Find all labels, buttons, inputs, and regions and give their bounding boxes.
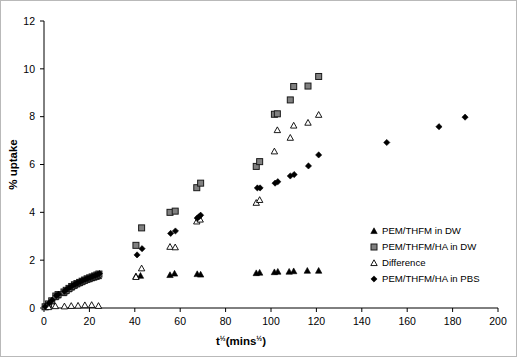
x-tick-label: 100 (262, 315, 280, 327)
data-point-filled-diamond (384, 139, 390, 145)
data-point-filled-triangle (291, 268, 297, 274)
data-point-open-triangle (274, 127, 280, 133)
data-point-gray-square (198, 180, 204, 186)
data-point-gray-square (305, 83, 311, 89)
data-point-gray-square (257, 159, 263, 165)
data-point-filled-diamond (436, 124, 442, 130)
y-tick-label: 0 (29, 302, 35, 314)
data-point-filled-diamond (462, 114, 468, 120)
y-tick-label: 12 (23, 15, 35, 27)
y-axis-title: % uptake (7, 139, 19, 190)
data-point-open-triangle (88, 302, 94, 308)
data-point-open-triangle (82, 302, 88, 308)
data-point-gray-square (291, 84, 297, 90)
y-tick-label: 10 (23, 63, 35, 75)
data-point-filled-diamond (316, 152, 322, 158)
data-point-open-triangle (167, 244, 173, 250)
data-point-open-triangle (315, 112, 321, 118)
data-point-filled-triangle (315, 267, 321, 273)
y-tick-label: 8 (29, 110, 35, 122)
y-tick-label: 6 (29, 158, 35, 170)
data-point-open-triangle (291, 122, 297, 128)
x-axis-title: t½(mins½) (216, 335, 266, 347)
x-tick-label: 120 (308, 315, 326, 327)
y-tick-label: 4 (29, 206, 35, 218)
data-point-filled-diamond (305, 163, 311, 169)
data-point-open-triangle (271, 148, 277, 154)
data-point-open-triangle (256, 197, 262, 203)
data-point-open-triangle (68, 303, 74, 309)
x-tick-label: 180 (444, 315, 462, 327)
x-axis-ticks: 020406080100120140160180200 (41, 308, 507, 327)
data-point-open-triangle (138, 265, 144, 271)
x-tick-label: 40 (129, 315, 141, 327)
data-point-gray-square (139, 225, 145, 231)
data-point-gray-square (371, 244, 377, 250)
y-axis-ticks: 024681012 (23, 15, 44, 314)
data-point-open-triangle (371, 260, 377, 266)
data-point-open-triangle (305, 119, 311, 125)
data-point-open-triangle (95, 303, 101, 309)
x-tick-label: 140 (353, 315, 371, 327)
chart-figure: 024681012020406080100120140160180200t½(m… (0, 0, 517, 357)
legend-label: PEM/THFM/HA in PBS (382, 273, 480, 284)
y-tick-label: 2 (29, 254, 35, 266)
data-point-filled-diamond (134, 252, 140, 258)
data-point-gray-square (133, 242, 139, 248)
legend-label: Difference (382, 257, 426, 268)
data-point-open-triangle (75, 302, 81, 308)
data-point-filled-diamond (371, 276, 377, 282)
axes (44, 21, 498, 308)
data-point-filled-triangle (304, 267, 310, 273)
x-tick-label: 20 (84, 315, 96, 327)
data-point-filled-diamond (139, 246, 145, 252)
legend-label: PEM/THFM in DW (382, 225, 462, 236)
scatter-plot: 024681012020406080100120140160180200t½(m… (1, 1, 517, 357)
x-tick-label: 200 (489, 315, 507, 327)
data-point-gray-square (287, 97, 293, 103)
data-point-gray-square (172, 208, 178, 214)
legend: PEM/THFM in DWPEM/THFM/HA in DWDifferenc… (371, 225, 480, 284)
data-point-open-triangle (61, 303, 67, 309)
data-point-gray-square (316, 73, 322, 79)
data-point-open-triangle (287, 135, 293, 141)
data-point-filled-triangle (371, 228, 377, 234)
data-point-filled-triangle (171, 270, 177, 276)
x-tick-label: 160 (398, 315, 416, 327)
x-tick-label: 60 (174, 315, 186, 327)
x-tick-label: 0 (41, 315, 47, 327)
x-tick-label: 80 (220, 315, 232, 327)
data-point-gray-square (274, 111, 280, 117)
data-point-open-triangle (172, 244, 178, 250)
legend-label: PEM/THFM/HA in DW (382, 241, 477, 252)
